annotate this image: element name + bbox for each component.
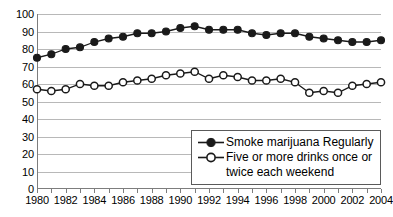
data-point-marker: [377, 79, 384, 86]
data-point-marker: [277, 30, 284, 37]
data-point-marker: [62, 46, 69, 53]
x-axis-tick: [94, 189, 95, 193]
data-point-marker: [48, 87, 55, 94]
data-point-marker: [33, 86, 40, 93]
legend-label-marijuana: Smoke marijuana Regularly: [226, 135, 373, 150]
y-axis-tick-label: 70: [0, 61, 34, 72]
data-point-marker: [349, 39, 356, 46]
data-point-marker: [119, 79, 126, 86]
data-point-marker: [105, 35, 112, 42]
x-axis-tick: [381, 189, 382, 193]
data-point-marker: [76, 80, 83, 87]
legend: Smoke marijuana Regularly Five or more d…: [191, 130, 381, 185]
data-point-marker: [363, 80, 370, 87]
y-axis-tick-label: 10: [0, 166, 34, 177]
data-point-marker: [191, 23, 198, 30]
data-point-marker: [220, 26, 227, 33]
x-axis-tick-label: 1992: [197, 194, 221, 207]
x-axis-tick-label: 2002: [340, 194, 364, 207]
y-axis-tick-label: 20: [0, 149, 34, 160]
y-axis-tick-label: 90: [0, 26, 34, 37]
x-axis-tick: [137, 189, 138, 193]
x-axis-tick-label: 1986: [111, 194, 135, 207]
x-axis-tick: [66, 189, 67, 193]
x-axis-tick-label: 1990: [168, 194, 192, 207]
data-point-marker: [148, 30, 155, 37]
x-axis-tick-label: 2004: [369, 194, 393, 207]
x-axis-tick: [152, 189, 153, 193]
y-axis-tick-label: 0: [0, 184, 34, 195]
data-point-marker: [205, 75, 212, 82]
data-point-marker: [77, 44, 84, 51]
x-axis-tick: [281, 189, 282, 193]
x-axis-tick: [338, 189, 339, 193]
data-point-marker: [177, 25, 184, 32]
x-axis-tick: [195, 189, 196, 193]
x-axis-tick: [238, 189, 239, 193]
data-point-marker: [249, 30, 256, 37]
x-axis-tick: [266, 189, 267, 193]
y-axis-tick-label: 30: [0, 131, 34, 142]
y-axis-tick-label: 50: [0, 96, 34, 107]
data-point-marker: [134, 77, 141, 84]
data-point-marker: [48, 51, 55, 58]
x-axis-tick: [309, 189, 310, 193]
data-point-marker: [292, 30, 299, 37]
data-point-marker: [349, 82, 356, 89]
x-axis-tick: [209, 189, 210, 193]
filled-circle-icon: [196, 135, 226, 150]
data-point-marker: [162, 72, 169, 79]
data-point-marker: [177, 70, 184, 77]
data-point-marker: [291, 79, 298, 86]
data-point-marker: [120, 33, 127, 40]
y-axis-tick-label: 80: [0, 44, 34, 55]
data-point-marker: [105, 82, 112, 89]
data-point-marker: [234, 26, 241, 33]
legend-label-drinks: Five or more drinks once or: [226, 150, 372, 165]
data-point-marker: [334, 89, 341, 96]
x-axis-tick: [109, 189, 110, 193]
x-axis-tick: [252, 189, 253, 193]
legend-label-drinks-line2: twice each weekend: [226, 165, 334, 180]
x-axis-tick: [352, 189, 353, 193]
x-axis-tick-label: 1984: [82, 194, 106, 207]
data-point-marker: [134, 30, 141, 37]
data-point-marker: [263, 77, 270, 84]
data-point-marker: [62, 86, 69, 93]
data-point-marker: [248, 77, 255, 84]
x-axis-tick-label: 1994: [226, 194, 250, 207]
x-axis-tick-label: 1998: [283, 194, 307, 207]
x-axis-tick-labels: 1980198219841986198819901992199419961998…: [0, 194, 388, 210]
legend-item-drinks: Five or more drinks once or: [196, 150, 375, 165]
x-axis-tick: [123, 189, 124, 193]
x-axis-tick-label: 1988: [140, 194, 164, 207]
legend-item-drinks-line2: twice each weekend: [196, 165, 375, 180]
x-axis-tick-label: 2000: [312, 194, 336, 207]
data-point-marker: [306, 89, 313, 96]
data-point-marker: [320, 87, 327, 94]
data-point-marker: [148, 75, 155, 82]
data-point-marker: [163, 28, 170, 35]
y-axis-tick-label: 100: [0, 9, 34, 20]
open-circle-icon: [196, 150, 226, 165]
data-point-marker: [263, 32, 270, 39]
y-axis-tick-labels: 1009080706050403020100: [0, 0, 34, 217]
data-point-marker: [335, 37, 342, 44]
x-axis-tick: [166, 189, 167, 193]
legend-item-marijuana: Smoke marijuana Regularly: [196, 135, 375, 150]
data-point-marker: [220, 72, 227, 79]
x-axis-tick: [324, 189, 325, 193]
data-point-marker: [363, 39, 370, 46]
x-axis-tick: [37, 189, 38, 193]
data-point-marker: [306, 33, 313, 40]
data-point-marker: [34, 54, 41, 61]
x-axis-tick: [51, 189, 52, 193]
y-axis-tick-label: 40: [0, 114, 34, 125]
y-axis-tick-label: 60: [0, 79, 34, 90]
x-axis-tick: [295, 189, 296, 193]
data-point-marker: [191, 68, 198, 75]
data-point-marker: [320, 35, 327, 42]
data-point-marker: [277, 75, 284, 82]
x-axis-tick: [80, 189, 81, 193]
